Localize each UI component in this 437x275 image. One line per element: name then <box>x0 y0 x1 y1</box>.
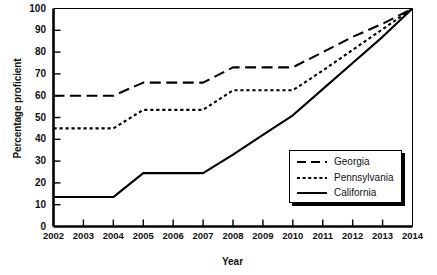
plot-area <box>0 0 437 275</box>
legend-label-pennsylvania: Pennsylvania <box>334 172 393 183</box>
legend-key-solid-icon <box>296 187 328 199</box>
legend-key-long-dash-icon <box>296 156 328 168</box>
chart-figure: Percentage proficient Year 0102030405060… <box>0 0 437 275</box>
legend-item-georgia: Georgia <box>296 154 370 169</box>
legend: Georgia Pennsylvania California <box>289 150 402 203</box>
legend-item-pennsylvania: Pennsylvania <box>296 170 393 185</box>
legend-label-georgia: Georgia <box>334 156 370 167</box>
series-line-georgia <box>54 9 413 96</box>
legend-label-california: California <box>334 187 376 198</box>
legend-key-dotted-icon <box>296 172 328 184</box>
legend-item-california: California <box>296 185 376 200</box>
